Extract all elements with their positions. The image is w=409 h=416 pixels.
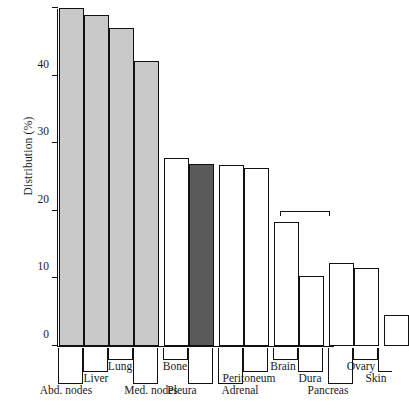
category-tick-abd-nodes bbox=[58, 348, 83, 384]
y-tick-label-30: 30 bbox=[19, 125, 49, 137]
category-tick-peritoneum bbox=[243, 348, 268, 372]
category-text-peritoneum: Peritoneum bbox=[222, 372, 275, 384]
category-text-lung: Lung bbox=[108, 360, 132, 372]
bar-peritoneum bbox=[244, 168, 269, 346]
category-text-dura: Dura bbox=[299, 372, 322, 384]
category-tick-med-nodes bbox=[133, 348, 158, 384]
y-tick-label-40: 40 bbox=[19, 58, 49, 70]
y-tick-50 bbox=[52, 7, 58, 8]
bar-ovary bbox=[354, 268, 379, 346]
category-text-skin: Skin bbox=[365, 372, 386, 384]
category-tick-liver bbox=[83, 348, 108, 372]
bracket-annotation bbox=[280, 211, 330, 216]
category-tick-skin bbox=[378, 348, 392, 372]
category-tick-lung bbox=[108, 348, 133, 360]
bar-dura bbox=[299, 276, 324, 346]
y-tick-label-0: 0 bbox=[19, 328, 49, 340]
bar-skin bbox=[384, 315, 409, 346]
bar-pancreas bbox=[329, 263, 354, 346]
bar-abd-nodes bbox=[59, 8, 84, 346]
category-tick-pleura bbox=[188, 348, 213, 384]
category-tick-dura bbox=[298, 348, 323, 372]
category-tick-bone bbox=[163, 348, 188, 360]
category-text-abd-nodes: Abd. nodes bbox=[40, 384, 92, 396]
y-tick-label-20: 20 bbox=[19, 193, 49, 205]
category-text-ovary: Ovary bbox=[347, 360, 376, 372]
plot-area: 0 10 20 30 40 50 bbox=[57, 9, 334, 347]
category-text-bone: Bone bbox=[163, 360, 187, 372]
category-text-brain: Brain bbox=[270, 360, 296, 372]
bar-lung bbox=[109, 28, 134, 346]
bar-liver bbox=[84, 15, 109, 346]
category-text-liver: Liver bbox=[84, 372, 109, 384]
bar-brain bbox=[274, 222, 299, 346]
category-tick-brain bbox=[273, 348, 298, 360]
bar-pleura bbox=[189, 164, 214, 347]
y-axis-label: Distribution (%) bbox=[22, 76, 34, 236]
y-tick-label-10: 10 bbox=[19, 260, 49, 272]
y-tick-label-50: 50 bbox=[19, 0, 49, 2]
bar-med-nodes bbox=[134, 61, 159, 346]
category-text-pancreas: Pancreas bbox=[308, 384, 349, 396]
bar-bone bbox=[164, 158, 189, 346]
category-tick-ovary bbox=[353, 348, 378, 360]
bar-series bbox=[58, 9, 334, 346]
bar-adrenal bbox=[219, 165, 244, 346]
category-text-adrenal: Adrenal bbox=[221, 384, 258, 396]
category-text-pleura: Pleura bbox=[167, 384, 196, 396]
